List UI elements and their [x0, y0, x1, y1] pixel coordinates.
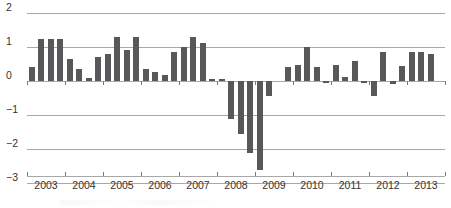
x-axis-tick — [141, 81, 142, 85]
bar — [114, 37, 120, 81]
x-axis-tick — [445, 81, 446, 85]
bar — [409, 52, 415, 81]
x-tick-label-2012: 2012 — [368, 180, 408, 191]
bar — [323, 81, 329, 83]
x-axis-tick — [293, 81, 294, 85]
x-tick-label-2013: 2013 — [406, 180, 446, 191]
bar — [57, 39, 63, 82]
bar — [209, 79, 215, 81]
bar — [257, 81, 263, 170]
bar — [390, 81, 396, 84]
bar — [380, 52, 386, 81]
bar — [219, 79, 225, 81]
bar — [29, 67, 35, 81]
bar — [352, 61, 358, 81]
bar — [247, 81, 253, 153]
x-axis-tick — [217, 81, 218, 85]
x-axis-line — [27, 176, 445, 177]
bar — [86, 78, 92, 81]
bar — [143, 69, 149, 81]
x-axis-tick — [255, 81, 256, 85]
x-tick-label-2005: 2005 — [102, 180, 142, 191]
x-tick-label-2011: 2011 — [330, 180, 370, 191]
bar — [428, 54, 434, 81]
x-tick-label-2004: 2004 — [64, 180, 104, 191]
bar — [333, 65, 339, 81]
bar — [162, 75, 168, 81]
x-axis-tick — [179, 81, 180, 85]
bar — [152, 72, 158, 81]
bar — [67, 59, 73, 81]
x-tick-label-2007: 2007 — [178, 180, 218, 191]
bar-chart: 210−1−2−3 200320042005200620072008200920… — [0, 0, 451, 208]
x-tick-label-2009: 2009 — [254, 180, 294, 191]
x-tick-label-2008: 2008 — [216, 180, 256, 191]
bar — [399, 66, 405, 81]
x-tick-label-2003: 2003 — [26, 180, 66, 191]
bar — [200, 43, 206, 81]
x-axis-tick-lower — [445, 172, 446, 176]
bar — [190, 37, 196, 81]
bar — [124, 50, 130, 81]
x-axis-tick — [65, 81, 66, 85]
x-axis-tick — [369, 81, 370, 85]
bar — [238, 81, 244, 134]
bar — [38, 39, 44, 82]
bar — [266, 81, 272, 96]
plot-area: 210−1−2−3 200320042005200620072008200920… — [0, 0, 451, 208]
x-tick-label-2010: 2010 — [292, 180, 332, 191]
bar — [181, 47, 187, 81]
x-axis-tick — [27, 81, 28, 85]
bar — [295, 65, 301, 81]
x-axis-tick — [331, 81, 332, 85]
bar — [133, 37, 139, 81]
bar — [418, 52, 424, 81]
bar — [228, 81, 234, 119]
x-tick-label-2006: 2006 — [140, 180, 180, 191]
bar — [371, 81, 377, 96]
bar — [95, 57, 101, 81]
bar — [342, 77, 348, 81]
bar — [361, 81, 367, 83]
bar — [105, 54, 111, 81]
x-axis-tick — [103, 81, 104, 85]
bar — [171, 52, 177, 81]
x-axis-tick — [407, 81, 408, 85]
bar — [76, 69, 82, 81]
page-edge-artifact — [60, 200, 220, 205]
bar — [285, 67, 291, 81]
bar — [314, 67, 320, 81]
bar — [304, 47, 310, 81]
bar — [48, 39, 54, 82]
